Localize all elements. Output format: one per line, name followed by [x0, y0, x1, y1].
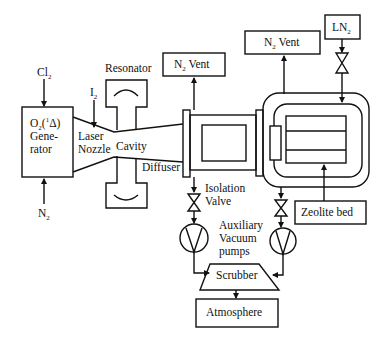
left-pump-glyph [186, 228, 202, 252]
cryo-inner-shell [274, 104, 362, 177]
cryo-port-block [270, 126, 281, 160]
resonator-label: Resonator [105, 62, 152, 75]
isolation-valve-label: Isolation Valve [205, 182, 245, 208]
mirror-bottom-curve-icon [114, 195, 138, 200]
left-pump-to-scrubber [194, 252, 209, 273]
ln2-valve-icon [336, 53, 348, 73]
n2-input-label: N2 [38, 207, 50, 220]
aux-pumps-label: Auxiliary Vacuum pumps [219, 219, 263, 258]
isolation-valve-icon [188, 194, 200, 211]
diagram-canvas [0, 0, 389, 346]
cavity-label: Cavity [116, 140, 147, 153]
resonator-top-mirror [106, 80, 147, 130]
right-valve-icon [275, 200, 287, 216]
right-pump-glyph [276, 231, 290, 254]
ln2-label: LN2 [332, 21, 351, 34]
n2-vent-right-label: N2 Vent [264, 36, 300, 49]
diffuser-label: Diffuser [142, 161, 180, 174]
n2-vent-left-label: N2 Vent [174, 58, 210, 71]
right-vacuum-pump-icon [270, 228, 296, 254]
scrubber-label: Scrubber [216, 269, 258, 282]
right-flange [256, 110, 263, 176]
mirror-top-curve-icon [114, 90, 138, 96]
atmosphere-label: Atmosphere [206, 306, 262, 319]
diffuser-flange [183, 110, 190, 177]
zeolite-stack [286, 116, 346, 163]
generator-label: O2(1Δ) Gene- rator [30, 117, 60, 156]
zeolite-bed-label: Zeolite bed [301, 206, 353, 219]
cl2-label: Cl2 [37, 66, 51, 79]
i2-label: I2 [90, 86, 97, 99]
right-pump-to-scrubber [273, 254, 283, 275]
left-vacuum-pump-icon [180, 224, 208, 252]
nozzle-label: Laser Nozzle [78, 130, 111, 156]
duct-window [202, 125, 246, 161]
